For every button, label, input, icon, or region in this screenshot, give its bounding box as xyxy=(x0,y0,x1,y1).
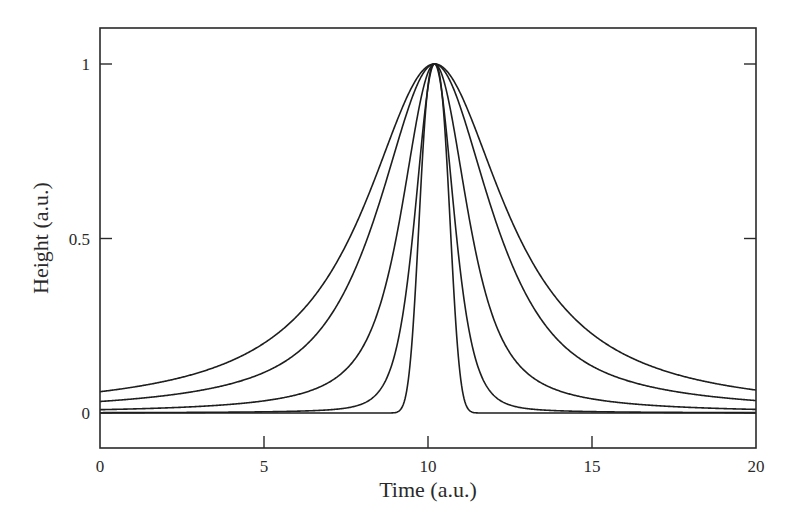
line-series-5 xyxy=(100,64,756,413)
x-tick-label: 10 xyxy=(420,457,437,476)
x-axis-label: Time (a.u.) xyxy=(379,477,477,502)
y-axis-label: Height (a.u.) xyxy=(28,182,53,294)
chart-figure: 05101520 00.51 Time (a.u.) Height (a.u.) xyxy=(0,0,787,530)
curve-series-group xyxy=(100,64,756,413)
y-tick-label: 0 xyxy=(82,404,91,423)
line-series-4 xyxy=(100,64,756,413)
x-tick-label: 0 xyxy=(96,457,105,476)
line-series-3 xyxy=(100,64,756,410)
line-series-1 xyxy=(100,64,756,392)
x-tick-label: 5 xyxy=(260,457,269,476)
line-series-2 xyxy=(100,64,756,401)
x-tick-label: 15 xyxy=(584,457,601,476)
y-tick-label: 0.5 xyxy=(69,230,90,249)
x-tick-label: 20 xyxy=(748,457,765,476)
x-axis-ticks: 05101520 xyxy=(96,436,765,476)
y-tick-label: 1 xyxy=(82,55,91,74)
